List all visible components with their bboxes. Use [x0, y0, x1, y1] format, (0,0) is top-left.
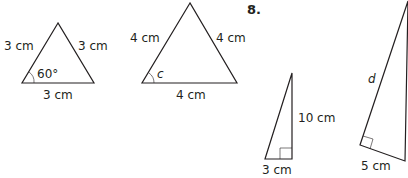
triangle-2: 4 cm 4 cm c 4 cm [130, 3, 246, 102]
angle-label: c [157, 67, 164, 81]
right-angle-mark [280, 148, 292, 159]
angle-arc [29, 72, 34, 83]
side-label-bottom: 3 cm [43, 88, 73, 102]
side-label-right: 3 cm [78, 39, 108, 53]
angle-arc [149, 73, 154, 83]
side-label-right: 4 cm [216, 31, 246, 45]
triangle-1: 3 cm 3 cm 60° 3 cm [4, 23, 108, 102]
problem-number: 8. [247, 2, 261, 17]
leg-short-label: 5 cm [361, 159, 391, 173]
leg-vertical-label: 10 cm [298, 111, 335, 125]
triangle-3: 10 cm 3 cm [262, 73, 335, 177]
side-label-left: 4 cm [130, 31, 160, 45]
geometry-figure: 3 cm 3 cm 60° 3 cm 4 cm 4 cm c 4 cm 8. 1… [0, 0, 408, 178]
angle-label: 60° [37, 67, 58, 81]
hypotenuse-label: d [368, 72, 376, 86]
triangle-4: d 5 cm [360, 1, 408, 173]
leg-horizontal-label: 3 cm [262, 163, 292, 177]
side-label-bottom: 4 cm [176, 88, 206, 102]
side-label-left: 3 cm [4, 39, 34, 53]
